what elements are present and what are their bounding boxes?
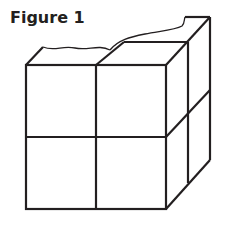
top-left-edge [26,47,43,65]
break-line-left [43,47,110,50]
top-mid-edge [96,42,124,65]
cube-stack-diagram [0,0,227,225]
